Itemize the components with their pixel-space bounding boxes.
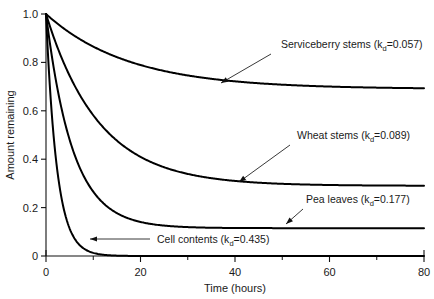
annotation-pea-leaves: Pea leaves (kd=0.177): [286, 193, 410, 224]
y-tick-label: 0.6: [23, 105, 38, 117]
series-line-serviceberry-stems: [46, 14, 424, 88]
series-annotations: Serviceberry stems (kd=0.057)Wheat stems…: [90, 38, 423, 248]
annotation-leader-line: [221, 54, 271, 83]
x-tick-label: 20: [134, 266, 146, 278]
y-tick-label: 0: [32, 250, 38, 262]
annotation-label: Cell contents (kd=0.435): [157, 233, 269, 248]
y-tick-label: 0.2: [23, 202, 38, 214]
annotation-leader-line: [239, 145, 290, 182]
annotation-serviceberry-stems: Serviceberry stems (kd=0.057): [221, 38, 423, 83]
y-axis-title: Amount remaining: [4, 90, 16, 179]
x-tick-label: 0: [43, 266, 49, 278]
annotation-wheat-stems: Wheat stems (kd=0.089): [239, 129, 410, 182]
x-axis-title: Time (hours): [204, 282, 266, 294]
chart-figure: 00.20.40.60.81.0 020406080 Time (hours) …: [0, 0, 434, 299]
annotation-arrowhead: [90, 236, 97, 241]
decay-line-chart: 00.20.40.60.81.0 020406080 Time (hours) …: [0, 0, 434, 299]
x-tick-label: 80: [418, 266, 430, 278]
x-tick-label: 60: [323, 266, 335, 278]
y-axis-tick-labels: 00.20.40.60.81.0: [23, 8, 38, 262]
y-tick-label: 0.8: [23, 56, 38, 68]
annotation-label: Serviceberry stems (kd=0.057): [281, 38, 423, 53]
x-tick-label: 40: [229, 266, 241, 278]
annotation-cell-contents: Cell contents (kd=0.435): [90, 233, 269, 248]
annotation-label: Wheat stems (kd=0.089): [297, 129, 410, 144]
x-axis-tick-labels: 020406080: [43, 266, 430, 278]
y-tick-label: 0.4: [23, 153, 38, 165]
y-axis-ticks: [41, 14, 46, 256]
y-tick-label: 1.0: [23, 8, 38, 20]
annotation-label: Pea leaves (kd=0.177): [306, 193, 410, 208]
